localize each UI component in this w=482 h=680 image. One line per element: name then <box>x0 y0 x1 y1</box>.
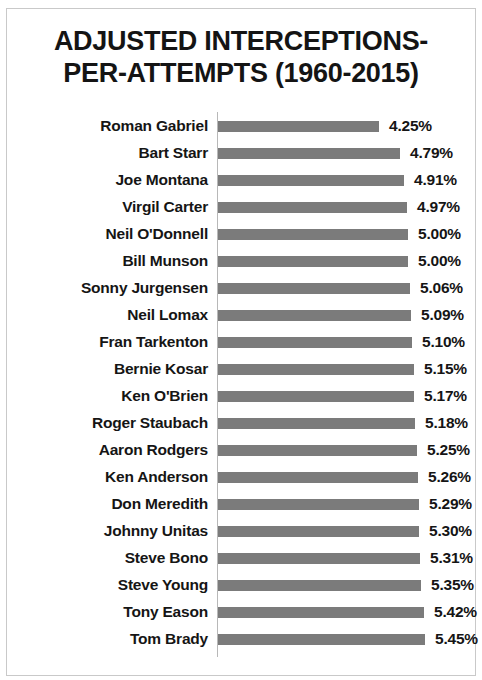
chart-row: Virgil Carter4.97% <box>0 194 482 221</box>
category-label: Bernie Kosar <box>20 356 208 383</box>
bar <box>218 364 414 375</box>
category-label: Aaron Rodgers <box>20 437 208 464</box>
bar <box>218 499 419 510</box>
bar-track: 5.17% <box>218 383 482 410</box>
bar-track: 5.00% <box>218 221 482 248</box>
bar-track: 4.91% <box>218 167 482 194</box>
category-label: Ken O'Brien <box>20 383 208 410</box>
chart-row: Fran Tarkenton5.10% <box>0 329 482 356</box>
bar-value-label: 5.42% <box>434 599 477 626</box>
bar-value-label: 5.29% <box>429 491 472 518</box>
chart-row: Joe Montana4.91% <box>0 167 482 194</box>
bar-track: 5.35% <box>218 572 482 599</box>
bar-value-label: 4.97% <box>417 194 460 221</box>
bar <box>218 283 410 294</box>
bar <box>218 418 415 429</box>
bar <box>218 391 414 402</box>
bar-value-label: 5.17% <box>424 383 467 410</box>
category-label: Steve Young <box>20 572 208 599</box>
category-label: Tom Brady <box>20 626 208 653</box>
category-label: Steve Bono <box>20 545 208 572</box>
chart-row: Steve Bono5.31% <box>0 545 482 572</box>
bar-value-label: 4.91% <box>414 167 457 194</box>
bar-value-label: 4.25% <box>389 113 432 140</box>
bar <box>218 256 408 267</box>
bar <box>218 175 404 186</box>
bar-track: 5.09% <box>218 302 482 329</box>
bar-value-label: 5.30% <box>429 518 472 545</box>
chart-row: Neil Lomax5.09% <box>0 302 482 329</box>
bar-value-label: 5.35% <box>431 572 474 599</box>
bar <box>218 337 412 348</box>
bar-value-label: 5.26% <box>428 464 471 491</box>
bar-track: 5.31% <box>218 545 482 572</box>
chart-row: Neil O'Donnell5.00% <box>0 221 482 248</box>
category-label: Bill Munson <box>20 248 208 275</box>
chart-row: Johnny Unitas5.30% <box>0 518 482 545</box>
bar <box>218 580 421 591</box>
bar-track: 4.97% <box>218 194 482 221</box>
bar-value-label: 5.18% <box>425 410 468 437</box>
bar <box>218 526 419 537</box>
bar-track: 5.00% <box>218 248 482 275</box>
category-label: Don Meredith <box>20 491 208 518</box>
bar-track: 4.25% <box>218 113 482 140</box>
bar-value-label: 4.79% <box>410 140 453 167</box>
bar-track: 5.26% <box>218 464 482 491</box>
category-label: Neil Lomax <box>20 302 208 329</box>
chart-row: Aaron Rodgers5.25% <box>0 437 482 464</box>
bar <box>218 121 379 132</box>
bar-value-label: 5.45% <box>435 626 478 653</box>
bar-value-label: 5.10% <box>422 329 465 356</box>
chart-row: Ken Anderson5.26% <box>0 464 482 491</box>
category-label: Roger Staubach <box>20 410 208 437</box>
bar <box>218 148 400 159</box>
bar-value-label: 5.25% <box>427 437 470 464</box>
category-label: Roman Gabriel <box>20 113 208 140</box>
bar <box>218 607 424 618</box>
chart-row: Don Meredith5.29% <box>0 491 482 518</box>
chart-row: Roman Gabriel4.25% <box>0 113 482 140</box>
bar-track: 5.29% <box>218 491 482 518</box>
bar-track: 5.10% <box>218 329 482 356</box>
bar-value-label: 5.31% <box>430 545 473 572</box>
bar <box>218 553 420 564</box>
category-label: Bart Starr <box>20 140 208 167</box>
bar-track: 5.25% <box>218 437 482 464</box>
bar-track: 5.15% <box>218 356 482 383</box>
bar-track: 5.18% <box>218 410 482 437</box>
bar-track: 5.06% <box>218 275 482 302</box>
category-label: Neil O'Donnell <box>20 221 208 248</box>
category-label: Tony Eason <box>20 599 208 626</box>
chart-row: Sonny Jurgensen5.06% <box>0 275 482 302</box>
category-label: Joe Montana <box>20 167 208 194</box>
chart-row: Roger Staubach5.18% <box>0 410 482 437</box>
plot-area: Roman Gabriel4.25%Bart Starr4.79%Joe Mon… <box>0 112 482 662</box>
chart-row: Ken O'Brien5.17% <box>0 383 482 410</box>
bar <box>218 202 407 213</box>
bar <box>218 310 411 321</box>
bar <box>218 634 425 645</box>
bar <box>218 229 408 240</box>
category-label: Fran Tarkenton <box>20 329 208 356</box>
chart-row: Tony Eason5.42% <box>0 599 482 626</box>
chart-row: Steve Young5.35% <box>0 572 482 599</box>
chart-row: Bart Starr4.79% <box>0 140 482 167</box>
category-label: Sonny Jurgensen <box>20 275 208 302</box>
chart-row: Bill Munson5.00% <box>0 248 482 275</box>
category-label: Johnny Unitas <box>20 518 208 545</box>
bar <box>218 445 417 456</box>
category-label: Virgil Carter <box>20 194 208 221</box>
bar-track: 5.45% <box>218 626 482 653</box>
chart-title: ADJUSTED INTERCEPTIONS- PER-ATTEMPTS (19… <box>18 26 464 90</box>
bar <box>218 472 418 483</box>
bar-track: 4.79% <box>218 140 482 167</box>
bar-chart: ADJUSTED INTERCEPTIONS- PER-ATTEMPTS (19… <box>0 0 482 680</box>
chart-row: Tom Brady5.45% <box>0 626 482 653</box>
bar-value-label: 5.00% <box>418 221 461 248</box>
bar-value-label: 5.09% <box>421 302 464 329</box>
bar-track: 5.42% <box>218 599 482 626</box>
bar-value-label: 5.06% <box>420 275 463 302</box>
bar-value-label: 5.00% <box>418 248 461 275</box>
category-label: Ken Anderson <box>20 464 208 491</box>
